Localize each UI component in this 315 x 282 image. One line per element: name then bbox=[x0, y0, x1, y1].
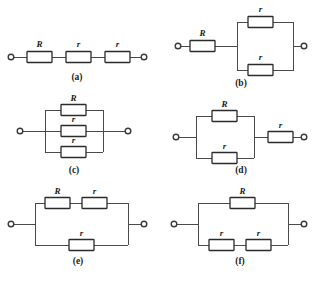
panel-c-caption: (c) bbox=[69, 165, 80, 176]
panel-f-resistor-r-right bbox=[246, 240, 271, 251]
panel-e-label-r-top: r bbox=[93, 186, 97, 196]
circuit-diagram-canvas: R r r (a) R r r (b) R r r bbox=[0, 0, 315, 282]
panel-a-label-R: R bbox=[35, 39, 42, 49]
panel-e-resistor-R bbox=[45, 198, 70, 209]
panel-f-resistor-r-left bbox=[209, 240, 234, 251]
panel-b-caption: (b) bbox=[235, 78, 247, 89]
panel-d: R r r (d) bbox=[173, 99, 307, 176]
circuit-figure: R r r (a) R r r (b) R r r bbox=[0, 0, 315, 282]
panel-d-resistor-r-series bbox=[268, 132, 293, 143]
panel-a-terminal-right bbox=[141, 54, 147, 60]
panel-c-resistor-r-bottom bbox=[61, 147, 86, 158]
panel-d-resistor-r-bottom bbox=[212, 153, 237, 164]
panel-d-terminal-left bbox=[173, 134, 179, 140]
panel-d-label-r-bottom: r bbox=[223, 141, 227, 151]
panel-d-terminal-right bbox=[301, 134, 307, 140]
panel-c-label-R: R bbox=[69, 93, 76, 103]
panel-a: R r r (a) bbox=[8, 39, 147, 83]
panel-b-label-r-top: r bbox=[259, 4, 263, 14]
panel-f-resistor-R bbox=[230, 198, 255, 209]
panel-b-terminal-right bbox=[301, 43, 307, 49]
panel-b-label-R: R bbox=[198, 28, 205, 38]
panel-e-label-r-bottom: r bbox=[80, 228, 84, 238]
panel-d-rails bbox=[196, 116, 254, 158]
panel-e-terminal-left bbox=[8, 221, 14, 227]
panel-c-label-r-middle: r bbox=[72, 114, 76, 124]
panel-f-label-R: R bbox=[238, 186, 245, 196]
panel-f-caption: (f) bbox=[235, 256, 245, 267]
panel-e-label-R: R bbox=[53, 186, 60, 196]
panel-a-label-r1: r bbox=[77, 39, 81, 49]
panel-f-rails bbox=[198, 203, 288, 245]
panel-a-resistor-R bbox=[27, 52, 52, 63]
panel-d-label-R: R bbox=[220, 99, 227, 109]
panel-b-label-r-bottom: r bbox=[259, 52, 263, 62]
panel-d-resistor-R bbox=[212, 111, 237, 122]
panel-d-caption: (d) bbox=[235, 165, 247, 176]
panel-e-rails bbox=[35, 203, 128, 245]
panel-e-resistor-r-bottom bbox=[69, 240, 94, 251]
panel-e-terminal-right bbox=[141, 221, 147, 227]
panel-b-resistor-r-top bbox=[248, 17, 273, 28]
panel-a-resistor-r2 bbox=[105, 52, 130, 63]
panel-c-label-r-bottom: r bbox=[72, 135, 76, 145]
panel-f-label-r-left: r bbox=[220, 228, 224, 238]
panel-d-label-r-series: r bbox=[279, 120, 283, 130]
panel-e-caption: (e) bbox=[73, 256, 84, 267]
panel-e: R r r (e) bbox=[8, 186, 147, 267]
panel-a-resistor-r1 bbox=[66, 52, 91, 63]
panel-b-resistor-r-bottom bbox=[248, 65, 273, 76]
panel-b-resistor-R bbox=[190, 41, 215, 52]
panel-c-terminal-right bbox=[125, 128, 131, 134]
panel-f-terminal-right bbox=[301, 221, 307, 227]
panel-f: R r r (f) bbox=[171, 186, 307, 267]
panel-a-terminal-left bbox=[8, 54, 14, 60]
panel-e-resistor-r-top bbox=[82, 198, 107, 209]
panel-c: R r r (c) bbox=[17, 93, 131, 176]
panel-a-caption: (a) bbox=[71, 72, 82, 83]
panel-f-terminal-left bbox=[171, 221, 177, 227]
panel-c-terminal-left bbox=[17, 128, 23, 134]
panel-b-terminal-left bbox=[175, 43, 181, 49]
panel-a-label-r2: r bbox=[116, 39, 120, 49]
panel-f-label-r-right: r bbox=[257, 228, 261, 238]
panel-b: R r r (b) bbox=[175, 4, 307, 89]
